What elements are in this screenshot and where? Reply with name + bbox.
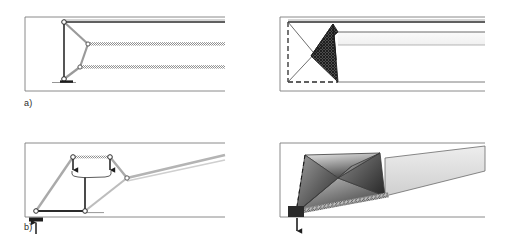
panel-a-right-band [338,32,485,45]
panel-b-left-dimension-brace [72,171,111,210]
panel-a-left [25,17,225,91]
panel-b-left-load-arrows [73,158,110,170]
panel-a-struts [64,22,88,79]
joint-left-base [34,209,39,214]
panel-a-screened-chords [80,42,225,68]
panel-b-right [280,143,485,231]
panel-b-right-band [385,146,485,196]
mechanism-diagram-canvas [0,0,508,249]
figure-root: a) b) [0,0,508,249]
joint-lower-apex [78,65,82,69]
panel-b-right-ground-support [288,206,304,231]
panel-a-ground-support [52,80,76,82]
joint-upper-left [71,155,76,160]
panel-a-right-frame [280,17,485,91]
panel-label-b: b) [24,222,32,232]
joint-upper-right [108,155,113,160]
panel-a-right [280,17,485,91]
joint-mid-base [83,209,88,214]
panel-a-left-frame [25,17,225,91]
joint-mid-apex [86,42,90,46]
joint-boom-pivot [125,176,129,180]
panel-b-left [25,143,225,234]
panel-label-a: a) [24,98,32,108]
panel-b-left-linkage [36,156,127,211]
joint-top-post [62,20,67,25]
panel-b-left-boom [127,155,225,181]
